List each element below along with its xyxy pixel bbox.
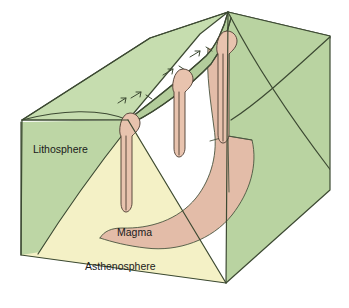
diagram-root: Lithosphere Magma Asthenosphere: [0, 0, 349, 308]
label-lithosphere: Lithosphere: [33, 143, 88, 155]
mid-ocean-ridge-block-diagram: Lithosphere Magma Asthenosphere: [0, 0, 349, 308]
conduit-middle: [173, 69, 193, 157]
label-asthenosphere: Asthenosphere: [85, 260, 156, 272]
label-magma: Magma: [117, 226, 152, 238]
